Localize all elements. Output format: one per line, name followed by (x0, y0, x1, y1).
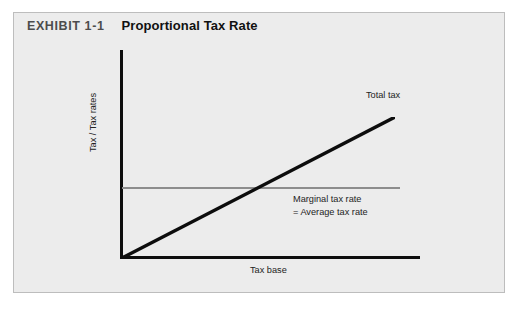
exhibit-header: EXHIBIT 1-1 Proportional Tax Rate (27, 18, 258, 33)
exhibit-title: Proportional Tax Rate (121, 18, 257, 33)
exhibit-figure: EXHIBIT 1-1 Proportional Tax Rate Tax / … (0, 0, 522, 315)
exhibit-number: EXHIBIT 1-1 (27, 19, 104, 33)
exhibit-panel (13, 12, 505, 293)
